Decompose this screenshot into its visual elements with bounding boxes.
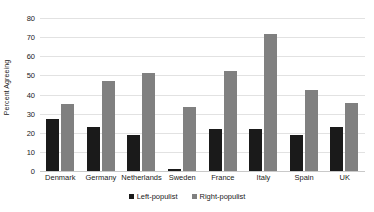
y-axis-tick-label: 30 [27,109,35,118]
bar [305,90,318,171]
bar-group [324,18,365,171]
bar-group [40,18,81,171]
bar-group [284,18,325,171]
bar [168,169,181,171]
x-axis-tick-label: France [211,173,234,182]
x-axis-tick-label: UK [339,173,349,182]
bar [127,135,140,171]
x-axis-tick-label: Denmark [45,173,75,182]
chart-legend: Left-populistRight-populist [0,192,374,201]
legend-item[interactable]: Left-populist [129,192,178,201]
bar [142,73,155,171]
bar [46,119,59,171]
legend-item[interactable]: Right-populist [192,192,246,201]
x-axis-tick-labels: DenmarkGermanyNetherlandsSwedenFranceIta… [40,173,365,187]
bar-group [121,18,162,171]
bar [87,127,100,171]
bar-chart: Percent Agreeing 01020304050607080 Denma… [0,0,374,212]
legend-label: Left-populist [137,192,178,201]
y-axis-tick-label: 60 [27,52,35,61]
bar [224,71,237,171]
bar [330,127,343,171]
y-axis-tick-label: 10 [27,147,35,156]
bar-group [162,18,203,171]
bar-group [81,18,122,171]
x-axis-tick-label: Sweden [169,173,196,182]
bar [249,129,262,171]
bar-group [243,18,284,171]
bars-layer [40,18,365,171]
bar [102,81,115,171]
x-axis-tick-label: Netherlands [121,173,161,182]
y-axis-tick-labels: 01020304050607080 [14,18,38,171]
y-axis-tick-label: 70 [27,33,35,42]
bar [290,135,303,171]
y-axis-title: Percent Agreeing [0,0,14,175]
x-axis-tick-label: Spain [294,173,313,182]
y-axis-title-label: Percent Agreeing [4,60,11,115]
y-axis-tick-label: 0 [31,167,35,176]
plot-area [40,18,365,171]
bar-group [203,18,244,171]
y-axis-tick-label: 20 [27,128,35,137]
gridline [40,171,365,172]
legend-label: Right-populist [200,192,246,201]
x-axis-tick-label: Germany [86,173,117,182]
bar [264,34,277,171]
legend-swatch-icon [192,194,197,199]
bar [183,107,196,171]
y-axis-tick-label: 40 [27,90,35,99]
y-axis-tick-label: 80 [27,14,35,23]
bar [209,129,222,171]
bar [61,104,74,171]
y-axis-tick-label: 50 [27,71,35,80]
x-axis-tick-label: Italy [257,173,271,182]
bar [345,103,358,171]
legend-swatch-icon [129,194,134,199]
